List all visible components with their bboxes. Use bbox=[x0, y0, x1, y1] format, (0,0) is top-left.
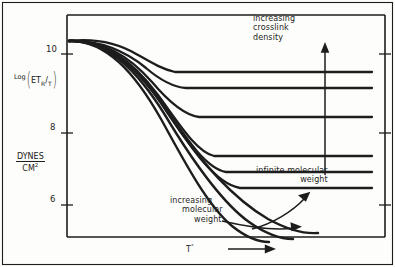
ytick-label-10: 10 bbox=[46, 44, 57, 54]
y-axis-denominator-t: T bbox=[48, 80, 52, 87]
x-direction-arrow bbox=[228, 246, 274, 253]
x-axis-title: T° bbox=[186, 243, 194, 254]
infinite-line-1: infinite molecular bbox=[256, 166, 328, 175]
y-axis-expression: ETR/T bbox=[31, 76, 52, 87]
y-axis-units: DYNES CM2 bbox=[16, 152, 45, 173]
y-axis-paren-close: ) bbox=[52, 72, 56, 87]
y-axis-et: ET bbox=[31, 76, 41, 85]
y-units-denominator: CM2 bbox=[16, 162, 45, 173]
crosslink-line-1: increasing bbox=[253, 14, 295, 23]
y-units-cm: CM bbox=[22, 164, 35, 173]
y-axis-log-prefix: Log bbox=[14, 73, 26, 81]
annotation-increasing-molecular-weight: increasing molecular weight bbox=[170, 196, 223, 224]
y-units-numerator: DYNES bbox=[16, 152, 45, 162]
figure-canvas: 10 8 6 Log ( ETR/T ) DYNES CM2 T° increa… bbox=[0, 0, 395, 267]
infinite-line-2: weight bbox=[256, 175, 328, 184]
molecular-line-3: weight bbox=[170, 215, 223, 224]
crosslink-line-3: density bbox=[253, 33, 295, 42]
plot-svg bbox=[0, 0, 395, 267]
crosslink-line-2: crosslink bbox=[253, 23, 295, 32]
molecular-line-2: molecular bbox=[170, 205, 223, 214]
y-axis-title: Log ( ETR/T ) bbox=[14, 72, 57, 87]
molecular-line-1: increasing bbox=[170, 196, 223, 205]
annotation-infinite-molecular-weight: infinite molecular weight bbox=[256, 166, 328, 185]
ytick-label-6: 6 bbox=[50, 194, 56, 204]
y-axis-paren-open: ( bbox=[26, 72, 30, 87]
ytick-label-8: 8 bbox=[50, 122, 56, 132]
infinite-mw-arrow bbox=[252, 193, 309, 229]
x-axis-degree-symbol: ° bbox=[191, 243, 194, 249]
y-units-exponent: 2 bbox=[35, 162, 39, 168]
annotation-crosslink-density: increasing crosslink density bbox=[253, 14, 295, 42]
curve-crosslinked-5 bbox=[69, 41, 372, 172]
